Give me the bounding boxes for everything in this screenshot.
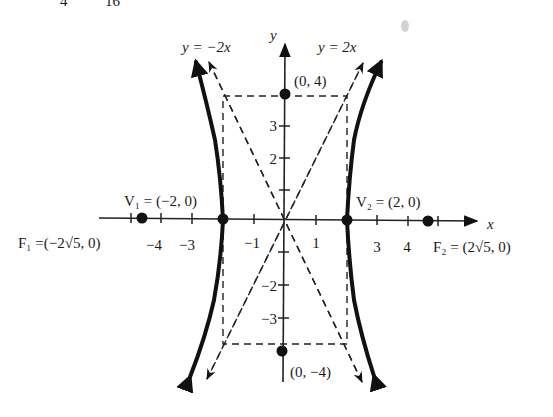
covertex-bottom-point xyxy=(277,346,288,357)
y-tick-label: 3 xyxy=(270,118,278,134)
x-axis-label: x xyxy=(486,216,494,232)
x-tick-label: 4 xyxy=(403,239,411,255)
asymptote-label-neg: y = −2x xyxy=(180,39,231,55)
asymptote-label-pos: y = 2x xyxy=(316,39,357,55)
fragment-left: 4 xyxy=(60,0,68,9)
v1-label: V₁ = (−2, 0) xyxy=(124,193,197,210)
hyperbola-diagram: 4 16 xyxy=(0,0,553,417)
x-tick-label: −1 xyxy=(244,235,260,251)
y-tick-label: 2 xyxy=(270,151,278,167)
x-tick-label: 1 xyxy=(312,235,320,251)
vertex-v1-point xyxy=(218,214,229,225)
y-tick-label: −3 xyxy=(261,311,277,327)
covertex-bottom-label: (0, −4) xyxy=(290,364,331,381)
f1-label: F₁ =(−2√5, 0) xyxy=(18,235,100,252)
y-tick-label: −2 xyxy=(261,278,277,294)
focus-f2-point xyxy=(423,216,434,227)
x-tick-label: 3 xyxy=(373,239,381,255)
fragment-right: 16 xyxy=(105,0,121,9)
covertex-top-label: (0, 4) xyxy=(294,73,327,90)
covertex-top-point xyxy=(280,89,291,100)
x-axis xyxy=(99,218,477,221)
x-tick-label: −4 xyxy=(146,237,162,253)
f2-label: F₂ = (2√5, 0) xyxy=(433,239,511,256)
scan-smudge xyxy=(401,20,409,32)
v2-label: V₂ = (2, 0) xyxy=(356,194,421,211)
focus-f1-point xyxy=(137,213,148,224)
equation-fragment: 4 16 xyxy=(60,0,121,9)
y-axis-label: y xyxy=(268,27,277,43)
vertex-v2-point xyxy=(342,215,353,226)
x-tick-label: −3 xyxy=(179,237,195,253)
